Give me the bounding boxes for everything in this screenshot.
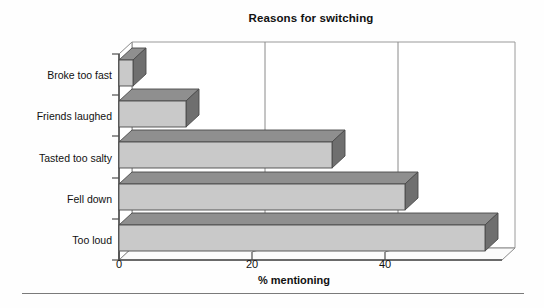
y-axis-labels: Broke too fast Friends laughed Tasted to…: [14, 42, 112, 248]
bar-front-face: [119, 184, 405, 210]
bar-too-loud[interactable]: [119, 213, 498, 251]
chart-page: Reasons for switching: [0, 0, 544, 308]
bar-tasted-too-salty[interactable]: [119, 130, 345, 168]
bar-front-face: [119, 142, 332, 168]
footer-divider: [22, 293, 524, 294]
x-axis-title-text: % mentioning: [214, 274, 330, 286]
x-axis-title: % mentioning: [0, 274, 544, 286]
bar-top-face: [119, 130, 345, 142]
bar-fell-down[interactable]: [119, 172, 418, 210]
x-tick-label-20: 20: [237, 258, 267, 270]
bar-top-face: [119, 89, 199, 101]
y-label-tasted-too-salty: Tasted too salty: [14, 152, 112, 164]
x-tick-label-40: 40: [370, 258, 400, 270]
bar-front-face: [119, 225, 485, 251]
bar-front-face: [119, 101, 186, 127]
bar-friends-laughed[interactable]: [119, 89, 199, 127]
bar-front-face: [119, 60, 133, 86]
y-label-friends-laughed: Friends laughed: [14, 110, 112, 122]
x-tick-label-0: 0: [104, 258, 134, 270]
y-label-too-loud: Too loud: [14, 234, 112, 246]
bar-top-face: [119, 213, 498, 225]
bar-top-face: [119, 172, 418, 184]
y-label-broke-too-fast: Broke too fast: [14, 69, 112, 81]
y-label-fell-down: Fell down: [14, 193, 112, 205]
